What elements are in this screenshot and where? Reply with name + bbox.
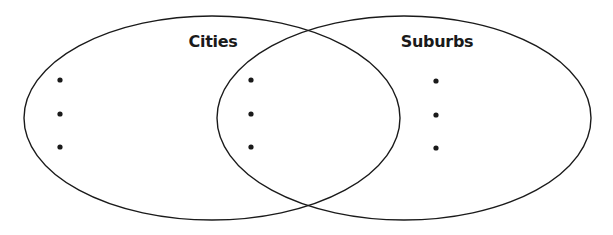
bullet-point xyxy=(57,111,62,116)
bullet-point xyxy=(433,78,438,83)
bullet-point xyxy=(248,111,253,116)
bullet-point xyxy=(248,144,253,149)
suburbs-label: Suburbs xyxy=(401,32,474,51)
bullet-point xyxy=(433,112,438,117)
bullet-point xyxy=(248,77,253,82)
venn-diagram: Cities Suburbs xyxy=(0,0,613,235)
bullet-point xyxy=(57,144,62,149)
cities-label: Cities xyxy=(189,32,238,51)
suburbs-only-bullets xyxy=(433,78,438,150)
bullet-point xyxy=(57,77,62,82)
bullet-point xyxy=(433,145,438,150)
cities-only-bullets xyxy=(57,77,62,149)
intersection-bullets xyxy=(248,77,253,149)
